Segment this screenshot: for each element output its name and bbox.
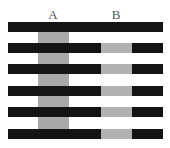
gray-segment-b-4 (101, 86, 132, 96)
black-bar-3 (8, 64, 163, 74)
label-a: A (48, 8, 57, 21)
black-bar-6 (8, 129, 163, 139)
gray-segment-b-5 (101, 107, 132, 117)
black-bar-2 (8, 43, 163, 53)
gray-segment-b-2 (101, 43, 132, 53)
black-bar-5 (8, 107, 163, 117)
black-bar-4 (8, 86, 163, 96)
label-b: B (112, 8, 121, 21)
black-bar-1 (8, 22, 163, 32)
gray-segment-b-6 (101, 129, 132, 139)
gray-segment-b-3 (101, 64, 132, 74)
